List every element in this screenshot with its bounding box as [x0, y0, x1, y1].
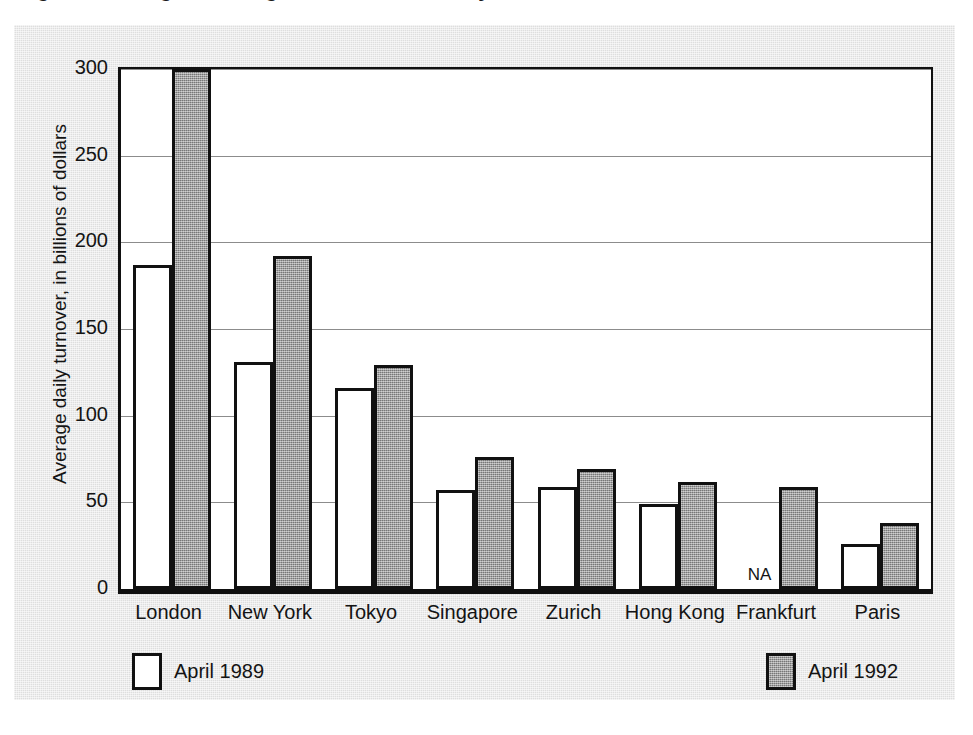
- y-tick-label: 100: [56, 404, 108, 424]
- chart-title-text: Figure 1 Foreign exchange market turnove…: [18, 0, 653, 2]
- bar-group: NA: [740, 69, 818, 589]
- y-tick-label: 200: [56, 230, 108, 250]
- y-tick-label: 300: [56, 57, 108, 77]
- x-tick-label: Tokyo: [321, 601, 422, 624]
- legend-item-april-1989: April 1989: [132, 653, 264, 690]
- bar: [678, 482, 717, 589]
- bar-group: [538, 69, 616, 589]
- plot-area: NA: [118, 67, 933, 594]
- bar: [133, 265, 172, 589]
- y-axis-tick-labels: 050100150200250300: [48, 25, 108, 700]
- x-tick-label: New York: [219, 601, 320, 624]
- legend-label-april-1989: April 1989: [174, 660, 264, 683]
- bar-group: [133, 69, 211, 589]
- bar: [172, 69, 211, 589]
- bar: [880, 523, 919, 589]
- bars-layer: NA: [121, 69, 931, 589]
- y-tick-label: 50: [56, 490, 108, 510]
- x-tick-label: London: [118, 601, 219, 624]
- x-tick-label: Singapore: [422, 601, 523, 624]
- y-tick-label: 250: [56, 144, 108, 164]
- bar: [841, 544, 880, 589]
- legend-item-april-1992: April 1992: [766, 653, 898, 690]
- x-tick-label: Paris: [827, 601, 928, 624]
- bar-group: [436, 69, 514, 589]
- legend-swatch-april-1989: [132, 653, 162, 690]
- bar: [475, 457, 514, 589]
- x-tick-label: Hong Kong: [624, 601, 725, 624]
- bar: [436, 490, 475, 589]
- chart-title-cropped: Figure 1 Foreign exchange market turnove…: [0, 0, 973, 13]
- chart-legend: April 1989 April 1992: [14, 653, 955, 703]
- bar-group: [639, 69, 717, 589]
- bar-group: [841, 69, 919, 589]
- legend-swatch-april-1992: [766, 653, 796, 690]
- bar: [273, 256, 312, 589]
- y-tick-label: 0: [56, 577, 108, 597]
- bar: [779, 487, 818, 589]
- bar: [577, 469, 616, 589]
- bar: [335, 388, 374, 589]
- bar-na-label: NA: [740, 565, 779, 585]
- x-tick-label: Frankfurt: [726, 601, 827, 624]
- legend-label-april-1992: April 1992: [808, 660, 898, 683]
- bar: [374, 365, 413, 589]
- bar: [538, 487, 577, 589]
- figure-panel: Average daily turnover, in billions of d…: [14, 25, 955, 700]
- bar-group: [234, 69, 312, 589]
- y-tick-label: 150: [56, 317, 108, 337]
- x-axis-tick-labels: LondonNew YorkTokyoSingaporeZurichHong K…: [118, 601, 933, 631]
- bar-group: [335, 69, 413, 589]
- x-tick-label: Zurich: [523, 601, 624, 624]
- bar: [639, 504, 678, 589]
- bar: [234, 362, 273, 589]
